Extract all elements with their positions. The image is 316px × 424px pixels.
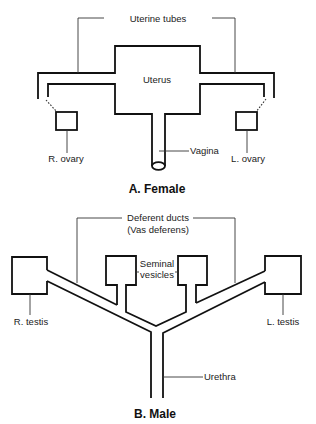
right-testis-label: R. testis	[14, 316, 49, 327]
female-title: A. Female	[129, 182, 186, 196]
deferent-ducts-leader-right	[193, 218, 235, 283]
left-ovary-shape	[236, 112, 257, 130]
uterine-tubes-leader-left	[78, 18, 104, 73]
left-testis-label: L. testis	[267, 316, 300, 327]
vas-deferens-label: (Vas deferens)	[127, 224, 189, 235]
urethra-label: Urethra	[204, 371, 236, 382]
female-diagram: Uterine tubes Uterus Vagina R. ovary L. …	[38, 13, 274, 196]
left-testis-shape	[265, 256, 301, 294]
right-ovary-shape	[56, 112, 77, 130]
reproductive-tract-diagram: Uterine tubes Uterus Vagina R. ovary L. …	[0, 0, 316, 424]
male-diagram: Deferent ducts (Vas deferens) Seminal ve…	[12, 212, 301, 421]
uterine-tubes-leader-right	[212, 18, 235, 73]
uterine-tubes-label: Uterine tubes	[130, 13, 187, 24]
vesicles-label: vesicles	[140, 269, 174, 280]
left-ovary-label: L. ovary	[231, 153, 265, 164]
right-ovary-label: R. ovary	[48, 153, 84, 164]
left-ovary-connector	[256, 99, 266, 112]
deferent-ducts-leader-left	[77, 218, 122, 283]
right-testis-shape	[12, 257, 47, 294]
uterus-label: Uterus	[143, 74, 171, 85]
uterus-tubes-outer-outline	[38, 46, 274, 99]
male-title: B. Male	[134, 407, 176, 421]
vagina-label: Vagina	[190, 145, 220, 156]
deferent-ducts-label: Deferent ducts	[127, 212, 189, 223]
right-deferent-duct-lower	[47, 281, 151, 398]
seminal-label: Seminal	[140, 258, 174, 269]
vagina-opening	[152, 162, 165, 170]
right-ovary-connector	[46, 100, 57, 112]
